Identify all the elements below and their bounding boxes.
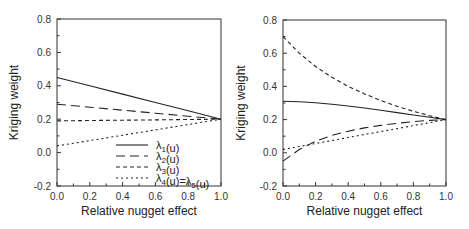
left-chart-panel: -0.20.00.20.40.60.80.00.20.40.60.81.0Rel… [7, 14, 228, 219]
y-tick-label: 0.2 [263, 114, 277, 125]
legend: λ1(u)λ2(u)λ3(u)λ4(u)=λ5(u) [116, 139, 209, 190]
x-tick-label: 0.4 [341, 191, 355, 202]
y-tick-label: 0.0 [37, 147, 51, 158]
y-tick-label: 0.8 [263, 15, 277, 26]
series-line-3 [57, 119, 221, 121]
series-line-4 [57, 119, 221, 146]
y-tick-label: -0.2 [34, 181, 52, 192]
series-line-1 [283, 101, 446, 119]
x-tick-label: 1.0 [439, 191, 453, 202]
series-line-2 [283, 120, 446, 162]
series-line-1 [57, 78, 221, 120]
y-tick-label: 0.8 [37, 14, 51, 25]
y-tick-label: 0.4 [37, 80, 51, 91]
right-chart-panel: -0.20.00.20.40.60.80.00.20.40.60.81.0Rel… [234, 15, 453, 219]
x-axis-label: Relative nugget effect [81, 204, 198, 218]
y-axis-label: Kriging weight [234, 65, 248, 141]
x-axis-label: Relative nugget effect [307, 204, 424, 218]
x-tick-label: 0.2 [309, 191, 323, 202]
x-tick-label: 0.6 [374, 191, 388, 202]
x-tick-label: 1.0 [214, 191, 228, 202]
x-tick-label: 0.2 [83, 191, 97, 202]
x-tick-label: 0.8 [181, 191, 195, 202]
y-tick-label: 0.0 [263, 147, 277, 158]
y-tick-label: 0.2 [37, 114, 51, 125]
x-tick-label: 0.8 [406, 191, 420, 202]
x-tick-label: 0.4 [116, 191, 130, 202]
y-tick-label: 0.6 [37, 47, 51, 58]
y-tick-label: -0.2 [260, 181, 278, 192]
series-line-3 [283, 37, 446, 120]
y-tick-label: 0.4 [263, 81, 277, 92]
figure: -0.20.00.20.40.60.80.00.20.40.60.81.0Rel… [0, 0, 469, 229]
y-tick-label: 0.6 [263, 48, 277, 59]
y-axis-label: Kriging weight [7, 64, 21, 140]
series-line-2 [57, 104, 221, 119]
x-tick-label: 0.0 [50, 191, 64, 202]
plot-frame [283, 20, 446, 186]
x-tick-label: 0.0 [276, 191, 290, 202]
x-tick-label: 0.6 [148, 191, 162, 202]
plot-frame [57, 19, 221, 186]
